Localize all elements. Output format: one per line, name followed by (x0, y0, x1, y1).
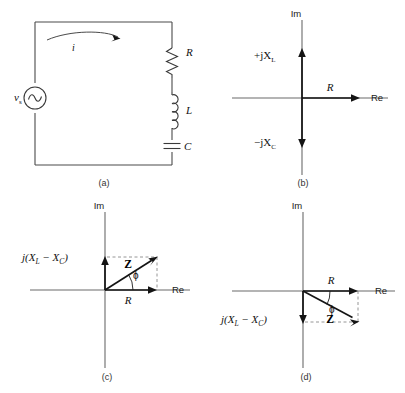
axis-label-re-b: Re (371, 92, 383, 103)
label-current: i (72, 42, 75, 53)
label-phi-d: ϕ (329, 304, 335, 315)
phasor-R-d-head-icon (349, 287, 358, 295)
label-reactance-c: j(XL − XC) (20, 251, 68, 266)
phasor-R-c-head-icon (148, 286, 157, 294)
label-inductor: L (185, 104, 192, 116)
label-jXC-b: −jXC (254, 136, 276, 151)
label-R-c: R (124, 294, 132, 306)
label-resistor: R (185, 46, 193, 58)
axis-label-im-b: Im (291, 8, 302, 19)
axis-label-im-d: Im (292, 200, 303, 211)
axis-label-re-d: Re (375, 285, 387, 296)
axis-label-re-c: Re (172, 284, 184, 295)
label-source: vs (14, 91, 22, 106)
label-capacitor: C (184, 140, 192, 152)
label-reactance-d: j(XL − XC) (219, 313, 267, 328)
panel-c-impedance-inductive: Im Re R j(XL − XC) Z ϕ (c) (20, 200, 190, 382)
caption-b: (b) (298, 178, 309, 188)
panel-a-circuit: vs i R L C (a) (14, 22, 193, 188)
panel-d-impedance-capacitive: Im Re R j(XL − XC) Z ϕ (d) (219, 200, 395, 382)
panel-b-phasors: Im Re R +jXL −jXC (b) (232, 8, 388, 188)
phasor-jXL-b-head-icon (298, 48, 306, 57)
current-arrow-icon (47, 32, 118, 40)
label-R-d: R (327, 274, 335, 286)
axis-label-im-c: Im (94, 200, 105, 211)
caption-c: (c) (102, 372, 113, 382)
resistor-zigzag-icon (167, 48, 178, 78)
label-jXL-b: +jXL (254, 49, 276, 64)
ac-source-sine-icon (29, 95, 42, 101)
figure-canvas: vs i R L C (a) Im Re R +jXL −jXC (0, 0, 405, 393)
label-Z-c: Z (124, 258, 132, 270)
phasor-reactance-d-head-icon (299, 315, 307, 324)
caption-a: (a) (99, 178, 110, 188)
label-R-b: R (326, 81, 334, 93)
inductor-coil-icon (172, 92, 178, 129)
capacitor-plates-icon (164, 144, 181, 149)
caption-d: (d) (301, 372, 312, 382)
figure-rlc-impedance-diagrams: vs i R L C (a) Im Re R +jXL −jXC (0, 0, 405, 393)
phasor-jXC-b-head-icon (298, 139, 306, 148)
phasor-R-b-head-icon (351, 94, 360, 102)
label-phi-c: ϕ (133, 270, 139, 281)
phase-angle-arc-d (327, 291, 330, 305)
